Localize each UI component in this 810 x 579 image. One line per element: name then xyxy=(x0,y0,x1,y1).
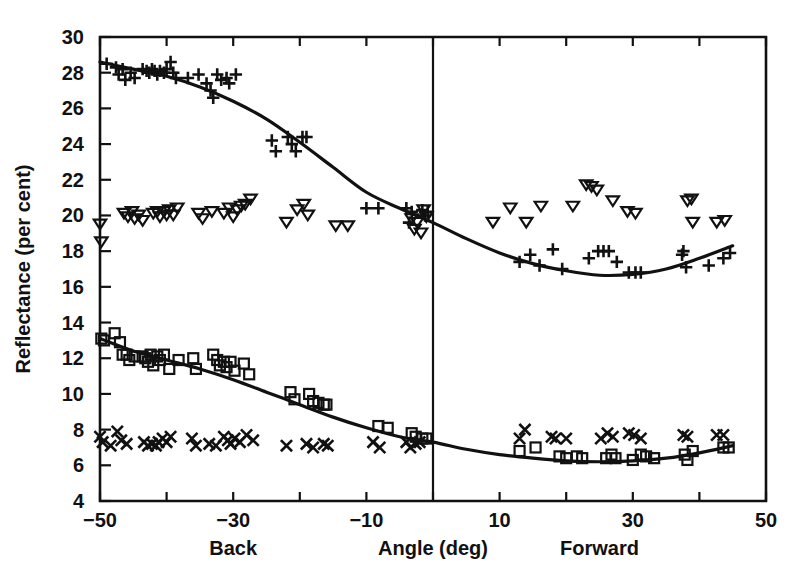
plus-marker xyxy=(533,259,545,271)
y-tick-label: 26 xyxy=(62,97,84,119)
triangle-down-marker xyxy=(535,202,547,212)
plus-marker xyxy=(270,145,282,157)
triangle-down-marker xyxy=(415,229,427,239)
triangle-down-marker xyxy=(487,218,499,228)
plus-marker xyxy=(266,134,278,146)
x-marker xyxy=(374,442,385,453)
y-axis-title: Reflectance (per cent) xyxy=(12,165,34,374)
triangle-down-marker xyxy=(342,221,354,231)
plus-marker xyxy=(360,202,372,214)
y-tick-label: 22 xyxy=(62,169,84,191)
y-tick-label: 4 xyxy=(73,490,85,512)
triangle-down-marker xyxy=(687,218,699,228)
fit-curves xyxy=(100,62,733,462)
x-axis-title: Angle (deg) xyxy=(378,537,488,559)
x-axis-annotation: Forward xyxy=(560,537,639,559)
plus-marker xyxy=(583,252,595,264)
plus-marker xyxy=(524,249,536,261)
plus-marker xyxy=(192,68,204,80)
plus-marker xyxy=(372,202,384,214)
square-marker xyxy=(188,353,198,363)
square-marker xyxy=(531,442,541,452)
triangle-down-marker xyxy=(196,214,208,224)
triangle-down-marker xyxy=(302,211,314,221)
square-marker xyxy=(244,369,254,379)
plus-marker xyxy=(547,243,559,255)
y-tick-label: 8 xyxy=(73,419,84,441)
x-marker xyxy=(165,431,176,442)
x-tick-label: −30 xyxy=(216,509,250,531)
y-tick-label: 10 xyxy=(62,383,84,405)
x-marker xyxy=(281,440,292,451)
square-marker xyxy=(515,446,525,456)
x-marker xyxy=(121,438,132,449)
x-tick-label: −10 xyxy=(349,509,383,531)
y-tick-label: 14 xyxy=(62,312,85,334)
x-marker xyxy=(561,433,572,444)
triangle-down-marker xyxy=(280,218,292,228)
triangle-down-marker xyxy=(95,237,107,247)
upper-fit-curve xyxy=(100,62,733,276)
x-axis-annotation: Back xyxy=(209,537,258,559)
x-tick-label: 30 xyxy=(622,509,644,531)
x-tick-label: −50 xyxy=(83,509,117,531)
y-tick-label: 30 xyxy=(62,26,84,48)
triangle-down-marker xyxy=(567,202,579,212)
reflectance-scatter-figure: −50−30−101030504681012141618202224262830… xyxy=(0,0,810,579)
y-tick-label: 12 xyxy=(62,347,84,369)
triangle-down-marker xyxy=(136,216,148,226)
x-tick-label: 50 xyxy=(755,509,777,531)
chart-canvas: −50−30−101030504681012141618202224262830… xyxy=(0,0,810,579)
y-tick-label: 6 xyxy=(73,454,84,476)
tick-labels: −50−30−101030504681012141618202224262830 xyxy=(62,26,777,531)
triangle-down-marker xyxy=(719,216,731,226)
x-marker xyxy=(248,435,259,446)
upper-triangle-series xyxy=(94,180,731,247)
y-tick-label: 24 xyxy=(62,133,85,155)
triangle-down-marker xyxy=(629,209,641,219)
triangle-down-marker xyxy=(504,204,516,214)
y-tick-label: 20 xyxy=(62,204,84,226)
y-tick-label: 18 xyxy=(62,240,84,262)
x-tick-label: 10 xyxy=(488,509,510,531)
x-marker xyxy=(607,431,618,442)
plus-marker xyxy=(611,256,623,268)
triangle-down-marker xyxy=(607,196,619,206)
triangle-down-marker xyxy=(591,186,603,196)
x-marker xyxy=(718,429,729,440)
y-tick-label: 28 xyxy=(62,62,84,84)
plus-marker xyxy=(556,263,568,275)
upper-plus-series xyxy=(100,56,736,279)
triangle-down-marker xyxy=(520,218,532,228)
plus-marker xyxy=(703,259,715,271)
triangle-down-marker xyxy=(330,221,342,231)
y-tick-label: 16 xyxy=(62,276,84,298)
